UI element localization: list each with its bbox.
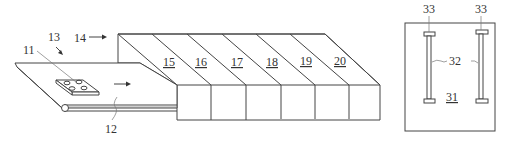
tunnel-pointer-arrow-icon [89, 35, 107, 40]
label-13: 13 [48, 30, 60, 44]
label-zone-15: 15 [163, 55, 175, 69]
label-31: 31 [446, 90, 458, 104]
conveyor-belt [15, 63, 177, 112]
panel [405, 16, 495, 131]
leader-line-32a [432, 60, 447, 62]
label-zone-20: 20 [334, 54, 346, 68]
label-zone-18: 18 [266, 55, 278, 69]
label-32: 32 [449, 54, 461, 68]
label-zone-16: 16 [195, 55, 207, 69]
label-11: 11 [23, 43, 35, 57]
label-zone-19: 19 [300, 54, 312, 68]
label-14: 14 [74, 31, 86, 45]
label-12: 12 [105, 122, 117, 136]
label-33-left: 33 [423, 2, 435, 16]
diagram-canvas: 11 13 14 12 15 16 17 18 19 20 33 33 32 3… [0, 0, 508, 145]
assembly-pointer-arrow-icon [56, 47, 63, 55]
label-zone-17: 17 [231, 55, 243, 69]
label-33-right: 33 [475, 2, 487, 16]
